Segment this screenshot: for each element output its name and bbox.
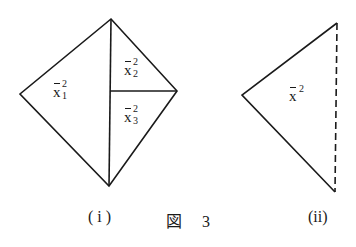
figure-title-char: 図: [166, 213, 182, 230]
label-x1-squared: x21: [53, 85, 61, 100]
panel-i-shape: [20, 19, 177, 186]
caption-panel-ii: (ii): [308, 208, 328, 226]
figure-number: 3: [202, 213, 210, 230]
label-x3-squared: x23: [124, 110, 132, 125]
figure-title: 図 3: [166, 208, 210, 232]
caption-panel-i: ( i ): [88, 208, 111, 226]
label-x-squared: x2: [289, 89, 297, 104]
panel-ii-shape: [242, 23, 337, 192]
label-x2-squared: x22: [124, 63, 132, 78]
triangle-solid-edges: [242, 23, 337, 192]
kite-outline: [20, 19, 177, 186]
triangle-dashed-edge: [335, 23, 337, 192]
vertical-diagonal: [109, 19, 111, 186]
